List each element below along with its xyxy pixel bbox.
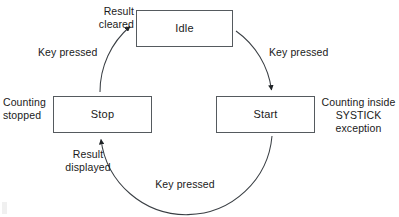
state-label-stop: Stop <box>91 108 114 121</box>
annotation-counting-inside-systick: Counting inside SYSTICK exception <box>318 96 399 135</box>
state-label-start: Start <box>253 108 277 121</box>
arc-idle-to-start <box>236 31 272 90</box>
state-node-start[interactable]: Start <box>216 96 315 133</box>
state-node-idle[interactable]: Idle <box>136 10 233 47</box>
arc-stop-to-idle <box>100 27 130 93</box>
state-label-idle: Idle <box>175 22 194 35</box>
annotation-result-cleared: Result cleared <box>66 5 134 31</box>
transition-label-stop-to-idle: Key pressed <box>38 46 118 59</box>
transition-label-start-to-stop: Key pressed <box>145 178 225 191</box>
arc-start-to-stop <box>101 136 272 215</box>
corner-artifact <box>2 202 7 214</box>
annotation-result-displayed: Result displayed <box>53 148 123 174</box>
transition-label-idle-to-start: Key pressed <box>269 46 349 59</box>
annotation-counting-stopped: Counting stopped <box>3 96 55 122</box>
state-node-stop[interactable]: Stop <box>53 96 152 133</box>
state-diagram: Idle Stop Start Result cleared Key press… <box>0 0 399 217</box>
